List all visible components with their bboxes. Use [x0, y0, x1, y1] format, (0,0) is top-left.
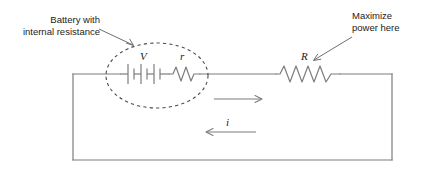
annotation-power-line-1: Maximize — [352, 10, 422, 22]
load-resistor-symbol — [276, 66, 340, 82]
current-arrow-bottom — [206, 129, 256, 136]
label-load-resistance-r: R — [301, 50, 308, 62]
battery-group-dashed-outline — [106, 43, 208, 108]
label-voltage-v: V — [140, 50, 147, 62]
internal-resistor-symbol — [170, 67, 200, 81]
circuit-diagram: Battery with internal resistance Maximiz… — [0, 0, 425, 182]
annotation-battery-line-1: Battery with — [8, 14, 100, 26]
leader-arrow-power — [314, 37, 353, 61]
annotation-maximize-power-here: Maximize power here — [352, 10, 422, 34]
annotation-power-line-2: power here — [352, 22, 422, 34]
label-current-i: i — [226, 116, 229, 128]
label-internal-resistance-r: r — [180, 50, 184, 62]
annotation-battery-with-internal-resistance: Battery with internal resistance — [8, 14, 100, 38]
annotation-battery-line-2: internal resistance — [8, 26, 100, 38]
current-arrow-top — [214, 96, 262, 103]
leader-arrow-battery — [99, 29, 134, 46]
battery-symbol — [120, 64, 170, 84]
